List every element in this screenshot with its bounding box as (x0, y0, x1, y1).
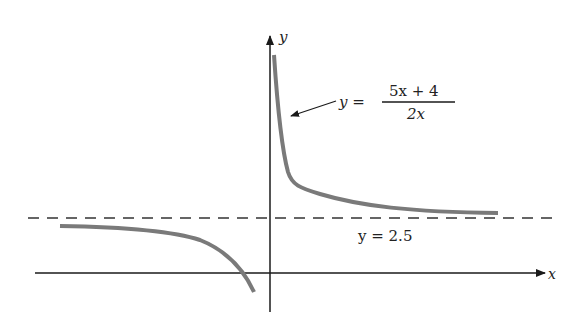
equation-numerator: 5x + 4 (389, 82, 439, 100)
equation-lhs: y = (338, 93, 365, 111)
x-axis-label: x (548, 266, 556, 282)
curve-right-branch (274, 55, 498, 213)
equation-denominator: 2x (406, 105, 426, 123)
asymptote-label: y = 2.5 (357, 227, 412, 245)
equation-pointer-arrow (291, 101, 336, 116)
function-graph: x y y = 5x + 4 2x y = 2.5 (0, 0, 582, 324)
curve-left-branch (60, 226, 254, 292)
y-axis-label: y (278, 28, 288, 46)
